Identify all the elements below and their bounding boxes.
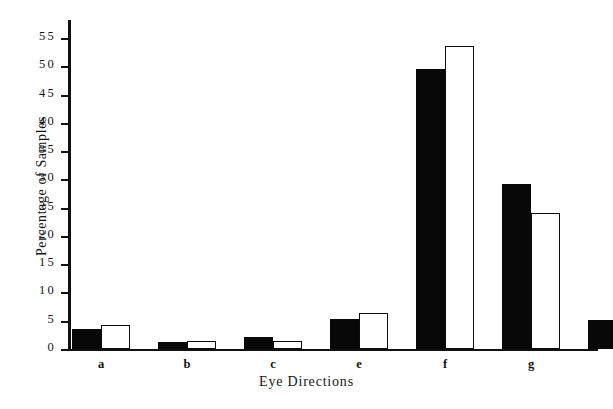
x-category-label-h: h xyxy=(588,357,613,372)
x-category-label-g: g xyxy=(502,357,560,372)
y-axis-tick-label: 30 xyxy=(39,170,56,185)
x-category-label-f: f xyxy=(416,357,474,372)
y-axis-tick-label: 5 xyxy=(48,312,56,327)
y-axis-tick: 35 xyxy=(61,151,68,153)
y-axis-tick: 45 xyxy=(61,95,68,97)
y-axis-tick: 25 xyxy=(61,208,68,210)
bar-c-white xyxy=(273,341,302,349)
y-axis-tick-label: 45 xyxy=(39,86,56,101)
bar-a-white xyxy=(101,325,130,349)
x-category-label-e: e xyxy=(330,357,388,372)
y-axis-tick: 15 xyxy=(61,264,68,266)
x-category-label-b: b xyxy=(158,357,216,372)
y-axis-tick-label: 35 xyxy=(39,142,56,157)
y-axis-tick: 20 xyxy=(61,236,68,238)
y-axis-tick-label: 0 xyxy=(48,340,56,355)
x-axis-title: Eye Directions xyxy=(0,374,613,390)
x-category-label-c: c xyxy=(244,357,302,372)
y-axis-tick-label: 50 xyxy=(39,57,56,72)
plot-area: 0510152025303540455055 abcefghij xyxy=(68,20,598,350)
y-axis-tick: 40 xyxy=(61,123,68,125)
bar-e-white xyxy=(359,313,388,349)
bar-f-black xyxy=(416,69,445,349)
y-axis-tick-label: 40 xyxy=(39,114,56,129)
y-axis-tick-label: 15 xyxy=(39,255,56,270)
y-axis-tick: 55 xyxy=(61,38,68,40)
y-axis-tick: 0 xyxy=(61,349,68,351)
bar-g-black xyxy=(502,184,531,349)
bar-b-white xyxy=(187,341,216,349)
y-axis-tick-label: 25 xyxy=(39,199,56,214)
y-axis-tick: 10 xyxy=(61,292,68,294)
bar-a-black xyxy=(72,329,101,349)
y-axis-line xyxy=(68,20,71,350)
x-axis-line xyxy=(68,349,598,351)
y-axis-tick-label: 10 xyxy=(39,283,56,298)
bar-e-black xyxy=(330,319,359,349)
bar-b-black xyxy=(158,342,187,349)
y-axis-tick-label: 20 xyxy=(39,227,56,242)
y-axis-tick: 5 xyxy=(61,321,68,323)
y-axis-tick-label: 55 xyxy=(39,29,56,44)
bar-h-black xyxy=(588,320,613,349)
y-axis-tick: 30 xyxy=(61,179,68,181)
bar-chart-figure: Percentage of Samples 051015202530354045… xyxy=(0,0,613,409)
x-category-label-a: a xyxy=(72,357,130,372)
bar-c-black xyxy=(244,337,273,349)
bar-f-white xyxy=(445,46,474,349)
bar-g-white xyxy=(531,213,560,349)
y-axis-tick: 50 xyxy=(61,66,68,68)
